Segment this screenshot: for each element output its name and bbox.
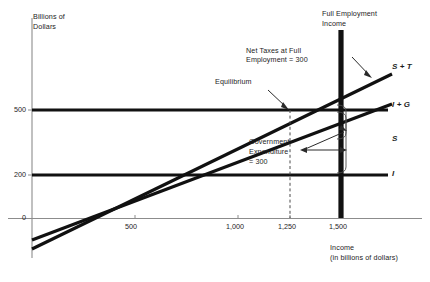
x-axis-title-line2: (in billions of dollars) — [330, 253, 398, 262]
full-employment-label-line2: Income — [322, 19, 346, 28]
y-axis-title-line1: Billions of — [33, 12, 65, 21]
gov-expenditure-label-line1: Government — [249, 137, 290, 146]
x-tick-label-500: 500 — [125, 222, 137, 231]
net-taxes-label-line1: Net Taxes at Full — [246, 46, 301, 55]
y-tick-label-500: 500 — [0, 105, 26, 114]
curve-label-i-plus-g: I + G — [392, 100, 410, 109]
economics-chart: Billions of Dollars 500 200 0 500 1,000 … — [0, 0, 430, 282]
x-axis-title-line1: Income — [330, 243, 354, 252]
y-tick-label-200: 200 — [0, 170, 26, 179]
curve-label-s: S — [392, 134, 397, 143]
chart-canvas — [0, 0, 430, 282]
gov-exp-arrowhead-left — [300, 147, 307, 153]
y-axis-title-line2: Dollars — [33, 22, 56, 31]
x-tick-label-1000: 1,000 — [226, 222, 244, 231]
gov-expenditure-label-line2: Expenditure — [249, 147, 288, 156]
curve-label-s-plus-t: S + T — [392, 62, 412, 71]
x-tick-label-1250: 1,250 — [278, 222, 296, 231]
curve-s — [32, 104, 392, 240]
equilibrium-label: Equilibrium — [215, 77, 252, 86]
gov-expenditure-label-line3: = 300 — [249, 157, 268, 166]
net-taxes-label-line2: Employment = 300 — [246, 55, 308, 64]
curve-label-i: I — [392, 169, 394, 178]
full-employment-label-line1: Full Employment — [322, 9, 377, 18]
y-tick-label-0: 0 — [0, 213, 26, 222]
x-tick-label-1500: 1,500 — [329, 222, 347, 231]
